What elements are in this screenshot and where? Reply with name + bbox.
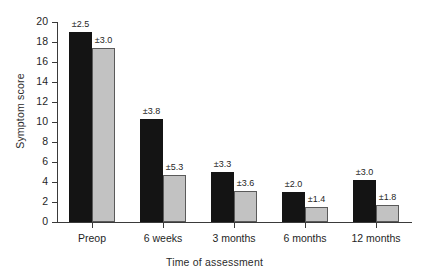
y-tick: 14 [52,82,57,83]
y-tick-label: 4 [42,175,48,187]
y-tick: 8 [52,142,57,143]
x-tick [305,222,306,228]
y-tick: 4 [52,182,57,183]
x-tick-label: 12 months [351,232,400,244]
y-tick-label: 10 [36,115,48,127]
chart-figure: Symptom score 02468101214161820 Preop6 w… [0,0,429,277]
y-tick-label: 16 [36,55,48,67]
bar [92,48,115,222]
bar [305,207,328,223]
bar [211,172,234,222]
y-tick-label: 12 [36,95,48,107]
error-label: ±3.0 [356,167,373,177]
bar [353,180,376,223]
y-tick: 10 [52,122,57,123]
y-tick: 20 [52,22,57,23]
x-tick-label: 3 months [212,232,255,244]
y-tick: 16 [52,62,57,63]
error-label: ±3.0 [95,35,112,45]
y-tick-label: 20 [36,15,48,27]
bar [282,192,305,222]
x-tick [376,222,377,228]
y-tick-label: 0 [42,215,48,227]
y-axis-label: Symptom score [14,41,26,181]
y-tick: 2 [52,202,57,203]
y-tick-label: 6 [42,155,48,167]
y-tick: 6 [52,162,57,163]
x-tick [92,222,93,228]
error-label: ±1.4 [308,194,325,204]
bar [376,205,399,222]
x-tick-label: 6 weeks [144,232,183,244]
bar [234,191,257,223]
x-tick [163,222,164,228]
error-label: ±1.8 [379,192,396,202]
y-tick-label: 8 [42,135,48,147]
x-tick [234,222,235,228]
x-axis-label: Time of assessment [0,256,429,268]
y-tick-label: 18 [36,35,48,47]
y-axis-line [57,22,58,222]
x-tick-label: 6 months [283,232,326,244]
error-label: ±3.3 [214,159,231,169]
y-tick: 18 [52,42,57,43]
error-label: ±3.8 [143,106,160,116]
error-label: ±3.6 [237,178,254,188]
plot-area: 02468101214161820 Preop6 weeks3 months6 … [57,22,412,222]
error-label: ±2.0 [285,179,302,189]
x-tick-label: Preop [78,232,106,244]
bar [69,32,92,222]
y-tick-label: 14 [36,75,48,87]
y-tick: 0 [52,222,57,223]
y-tick: 12 [52,102,57,103]
error-label: ±2.5 [72,19,89,29]
bar [163,175,186,222]
y-tick-label: 2 [42,195,48,207]
error-label: ±5.3 [166,162,183,172]
bar [140,119,163,222]
